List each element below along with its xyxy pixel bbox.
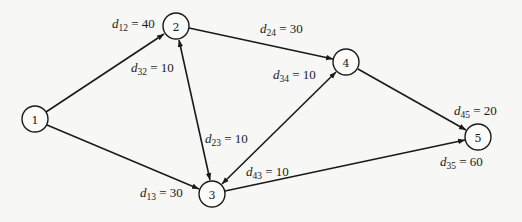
edge-4-5 [358,69,466,130]
label-d35: d35 = 60 [440,154,483,171]
svg-text:1: 1 [32,114,39,127]
node-5: 5 [465,124,491,150]
diagram-svg: 1 2 3 4 5 d12 = 40 d32 = 10 d24 = 30 d34… [0,0,522,222]
svg-text:3: 3 [209,189,216,202]
edge-1-3 [47,125,199,189]
node-4: 4 [333,49,359,75]
label-d32: d32 = 10 [131,60,174,77]
network-diagram: 1 2 3 4 5 d12 = 40 d32 = 10 d24 = 30 d34… [0,0,522,222]
label-d23: d23 = 10 [205,131,248,148]
svg-text:2: 2 [173,21,180,34]
label-d45: d45 = 20 [454,103,497,120]
label-d13: d13 = 30 [140,185,183,202]
node-3: 3 [199,181,225,207]
node-1: 1 [22,106,48,132]
svg-text:5: 5 [475,132,482,145]
label-d24: d24 = 30 [260,21,303,38]
label-d12: d12 = 40 [112,16,155,33]
edge-2-3-bidirectional [179,40,210,180]
svg-text:4: 4 [343,57,350,70]
node-2: 2 [163,13,189,39]
label-d43: d43 = 10 [246,164,289,181]
label-d34: d34 = 10 [273,67,316,84]
edge-3-5 [225,140,465,191]
